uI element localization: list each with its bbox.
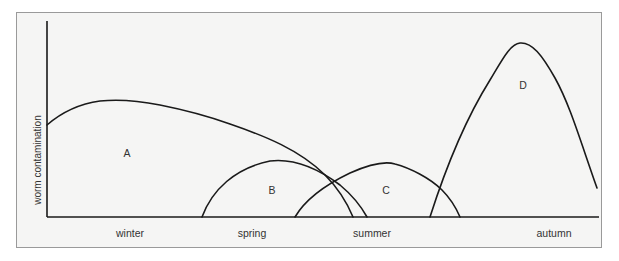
y-axis-label: worm contamination bbox=[32, 115, 43, 204]
curve-c-label: C bbox=[382, 184, 390, 196]
x-label-winter: winter bbox=[116, 227, 144, 239]
x-label-summer: summer bbox=[353, 227, 391, 239]
curve-d-label: D bbox=[519, 79, 527, 91]
x-label-autumn: autumn bbox=[536, 227, 571, 239]
contamination-chart bbox=[0, 0, 619, 261]
curve-d bbox=[430, 43, 597, 217]
curve-b-label: B bbox=[268, 184, 275, 196]
x-label-spring: spring bbox=[238, 227, 267, 239]
curve-b bbox=[202, 161, 367, 217]
curve-a-label: A bbox=[123, 147, 130, 159]
curve-a bbox=[47, 100, 353, 217]
